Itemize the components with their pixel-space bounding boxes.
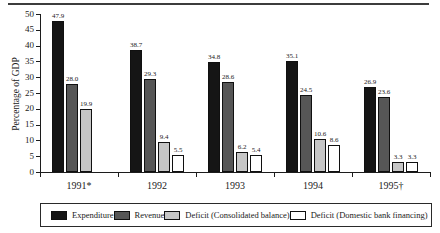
bar xyxy=(66,84,78,172)
x-tick-mark xyxy=(40,173,41,177)
bar-value-label: 34.8 xyxy=(199,53,229,61)
y-tick-mark xyxy=(36,156,40,157)
y-tick-mark xyxy=(36,30,40,31)
y-tick-label: 45 xyxy=(14,25,34,34)
bar-value-label: 5.4 xyxy=(241,146,271,154)
bar-value-label: 38.7 xyxy=(121,41,151,49)
bar-chart-figure: Percentage of GDP 0510152025303540455047… xyxy=(0,0,440,233)
y-tick-mark xyxy=(36,140,40,141)
x-tick-mark xyxy=(274,173,275,177)
bar-value-label: 23.6 xyxy=(369,88,399,96)
y-tick-mark xyxy=(36,93,40,94)
legend-item: Revenue xyxy=(114,210,165,220)
legend-label: Expenditure xyxy=(72,210,114,220)
bar-value-label: 8.6 xyxy=(319,136,349,144)
bar xyxy=(236,152,248,172)
y-tick-mark xyxy=(36,109,40,110)
y-tick-mark xyxy=(36,46,40,47)
bar-value-label: 28.0 xyxy=(57,75,87,83)
legend-item: Deficit (Consolidated balance) xyxy=(164,210,289,220)
legend-swatch xyxy=(51,211,67,220)
y-axis-line xyxy=(40,14,41,172)
bar-value-label: 19.9 xyxy=(71,100,101,108)
x-tick-mark xyxy=(118,173,119,177)
x-axis-line xyxy=(40,172,431,173)
legend-swatch xyxy=(114,211,130,220)
y-tick-label: 50 xyxy=(14,10,34,19)
y-tick-label: 5 xyxy=(14,152,34,161)
bar-value-label: 26.9 xyxy=(355,78,385,86)
bar-value-label: 29.3 xyxy=(135,70,165,78)
x-category-label: 1995† xyxy=(352,180,430,191)
bar xyxy=(286,61,298,172)
bar xyxy=(250,155,262,172)
bar-value-label: 35.1 xyxy=(277,52,307,60)
bar xyxy=(364,87,376,172)
bar-value-label: 28.6 xyxy=(213,73,243,81)
bar xyxy=(130,50,142,172)
top-rule xyxy=(8,3,429,5)
bar xyxy=(222,82,234,172)
legend-label: Deficit (Domestic bank financing) xyxy=(311,210,428,220)
x-tick-mark xyxy=(196,173,197,177)
bar xyxy=(80,109,92,172)
legend-label: Revenue xyxy=(135,210,165,220)
x-category-label: 1994 xyxy=(274,180,352,191)
y-tick-label: 30 xyxy=(14,73,34,82)
bar xyxy=(392,162,404,172)
y-tick-label: 20 xyxy=(14,104,34,113)
y-tick-mark xyxy=(36,77,40,78)
y-tick-label: 15 xyxy=(14,120,34,129)
x-category-label: 1993 xyxy=(196,180,274,191)
bar xyxy=(144,79,156,172)
x-category-label: 1992 xyxy=(118,180,196,191)
bar-value-label: 24.5 xyxy=(291,86,321,94)
legend-swatch xyxy=(164,211,180,220)
legend-label: Deficit (Consolidated balance) xyxy=(185,210,289,220)
y-tick-mark xyxy=(36,14,40,15)
legend: ExpenditureRevenueDeficit (Consolidated … xyxy=(40,203,432,227)
y-tick-label: 25 xyxy=(14,89,34,98)
bar xyxy=(328,145,340,172)
y-tick-label: 40 xyxy=(14,41,34,50)
legend-swatch xyxy=(290,211,306,220)
bar xyxy=(172,155,184,172)
bar xyxy=(52,21,64,172)
y-tick-label: 35 xyxy=(14,57,34,66)
legend-item: Expenditure xyxy=(51,210,114,220)
bar xyxy=(378,97,390,172)
x-tick-mark xyxy=(430,173,431,177)
y-tick-label: 10 xyxy=(14,136,34,145)
legend-item: Deficit (Domestic bank financing) xyxy=(290,210,428,220)
bar-value-label: 9.4 xyxy=(149,133,179,141)
y-tick-mark xyxy=(36,61,40,62)
bar-value-label: 3.3 xyxy=(397,153,427,161)
bar-value-label: 47.9 xyxy=(43,12,73,20)
bar xyxy=(406,162,418,172)
x-category-label: 1991* xyxy=(40,180,118,191)
x-tick-mark xyxy=(352,173,353,177)
y-tick-mark xyxy=(36,125,40,126)
bar-value-label: 5.5 xyxy=(163,146,193,154)
y-tick-label: 0 xyxy=(14,168,34,177)
